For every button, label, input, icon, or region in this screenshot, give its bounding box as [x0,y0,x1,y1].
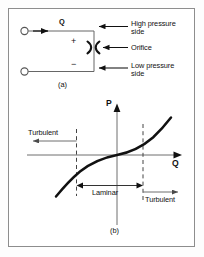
turbulent-left-label: Turbulent [28,129,58,137]
turbulent-right-label: Turbulent [145,196,175,204]
orifice-label: Orifice [131,44,152,52]
x-axis-label-q: Q [172,158,179,168]
y-axis-label-p: P [106,98,112,108]
figure-root: Q + − High pressure side Orifice Low pre… [0,0,204,257]
high-pressure-side-label: High pressure side [131,20,183,36]
laminar-label: Laminar [92,189,118,197]
panel-b-caption: (b) [110,226,119,235]
plus-sign: + [71,36,76,46]
low-pressure-side-label: Low pressure side [131,62,183,78]
flow-label-q: Q [59,18,65,26]
minus-sign: − [71,59,76,69]
panel-a-caption: (a) [58,80,67,89]
